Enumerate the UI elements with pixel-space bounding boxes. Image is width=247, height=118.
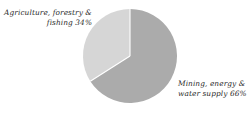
pie-label-mining-energy-water-supply: Mining, energy & water supply 66% — [178, 79, 247, 100]
pie-chart-figure: Agriculture, forestry & fishing 34% Mini… — [0, 0, 247, 118]
pie-label-agriculture-line1: Agriculture, forestry & — [2, 8, 92, 18]
pie-label-agriculture-line2: fishing 34% — [2, 18, 92, 28]
pie-label-mining-line2: water supply 66% — [178, 89, 247, 99]
pie-label-agriculture-forestry-fishing: Agriculture, forestry & fishing 34% — [2, 8, 92, 29]
pie-label-mining-line1: Mining, energy & — [178, 79, 247, 89]
